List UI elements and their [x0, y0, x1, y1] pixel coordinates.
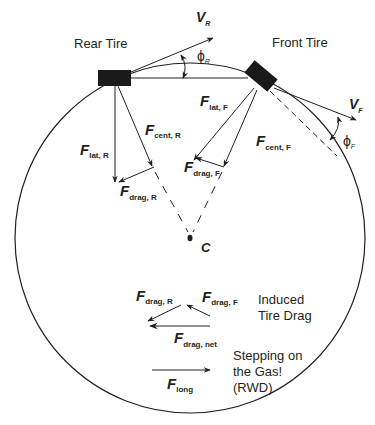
f-drag-front-label: Fdrag, F — [184, 158, 220, 178]
v-rear-label: VR — [196, 9, 210, 27]
f-long-label: Flong — [167, 375, 193, 394]
center-label: C — [201, 240, 211, 255]
front-tire — [244, 60, 277, 92]
front-radius-dashed — [193, 172, 222, 232]
f-cent-front-label: Fcent, F — [256, 132, 291, 152]
f-drag-rear-label: Fdrag, R — [120, 182, 157, 202]
phi-front-label: ϕF — [343, 133, 356, 150]
phi-rear-label: ϕR — [197, 48, 210, 65]
phi-rear-arc — [181, 55, 185, 78]
v-front-label: VF — [349, 96, 363, 114]
f-cent-front-arrow — [224, 90, 257, 166]
tire-drag-diagram: Rear Tire Front Tire VR ϕR VF ϕF Flat, R… — [0, 0, 375, 425]
phi-front-arc — [330, 117, 339, 140]
f-cent-rear-label: Fcent, R — [145, 121, 181, 140]
center-point — [188, 235, 193, 241]
inset-drag-front-arrow — [187, 305, 210, 316]
gas-caption: Stepping on the Gas! (RWD) — [233, 348, 306, 395]
inset-drag-front-label: Fdrag, F — [202, 288, 238, 307]
inset-drag-net-label: Fdrag, net — [174, 329, 217, 349]
f-lat-front-label: Flat, F — [200, 92, 228, 112]
induced-drag-caption: Induced Tire Drag — [258, 292, 312, 323]
rear-radius-dashed — [155, 172, 188, 232]
f-lat-rear-label: Flat, R — [80, 141, 109, 160]
rear-tire — [98, 70, 131, 86]
rear-tire-label: Rear Tire — [74, 36, 127, 51]
inset-drag-rear-arrow — [148, 305, 181, 321]
inset-drag-rear-label: Fdrag, R — [136, 287, 173, 306]
f-drag-front-arrow — [196, 158, 224, 167]
front-tire-label: Front Tire — [272, 35, 328, 50]
f-drag-rear-arrow — [119, 167, 154, 182]
